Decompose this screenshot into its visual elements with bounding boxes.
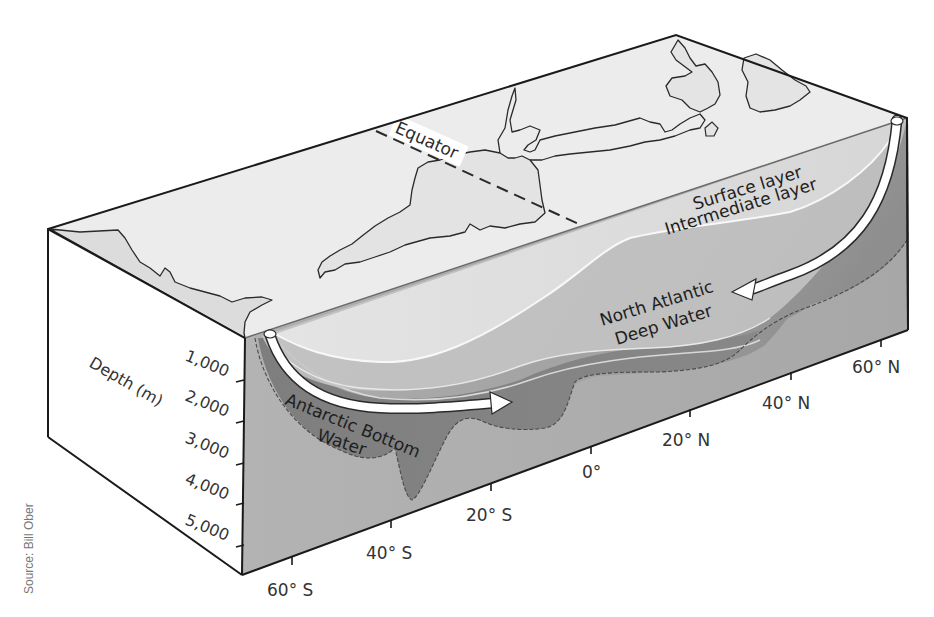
lat-tick-20n: 20° N xyxy=(662,430,710,450)
lat-tick-0: 0° xyxy=(582,462,601,482)
lat-tick-60s: 60° S xyxy=(267,580,313,600)
lat-tick-40s: 40° S xyxy=(366,543,412,563)
lat-tick-60n: 60° N xyxy=(852,357,900,377)
lat-tick-40n: 40° N xyxy=(762,393,810,413)
ocean-cross-section-diagram: Equator xyxy=(0,0,934,617)
lat-tick-20s: 20° S xyxy=(466,505,512,525)
source-credit: Source: Bill Ober xyxy=(22,503,36,594)
